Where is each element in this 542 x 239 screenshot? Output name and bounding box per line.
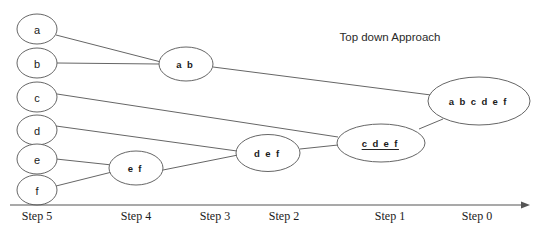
node-cdef[interactable]: c d e f [337, 124, 425, 162]
axis-tick-label-3: Step 2 [269, 209, 299, 223]
edge-def-to-cdef [300, 145, 338, 149]
node-ab-label: a b [176, 59, 194, 70]
node-abcdef-label: a b c d e f [449, 96, 508, 107]
node-d[interactable]: d [17, 115, 57, 145]
axis-tick-label-4: Step 1 [375, 209, 405, 223]
dendrogram-canvas: abcdefe fa bd e fc d e fa b c d e f Step… [0, 0, 542, 239]
node-cdef-label: c d e f [362, 138, 399, 149]
node-e-label: e [34, 154, 40, 166]
edge-ef-to-def [163, 155, 238, 170]
node-d-label: d [34, 125, 40, 137]
edge-d-to-def [56, 126, 237, 151]
edge-b-to-ab [57, 63, 159, 64]
node-c-label: c [34, 92, 40, 104]
edge-e-to-ef [56, 159, 112, 165]
edge-ab-to-abcdef [213, 67, 431, 95]
node-c[interactable]: c [17, 82, 57, 112]
dendrogram-diagram: abcdefe fa bd e fc d e fa b c d e f Step… [0, 0, 542, 239]
node-def[interactable]: d e f [236, 135, 300, 172]
diagram-title: Top down Approach [339, 31, 440, 43]
node-a-label: a [34, 24, 41, 36]
node-ef[interactable]: e f [109, 151, 163, 185]
axis-layer: Step 5Step 4Step 3Step 2Step 1Step 0 [10, 201, 530, 222]
node-b-label: b [34, 58, 40, 70]
axis-tick-label-0: Step 5 [22, 209, 52, 223]
edge-f-to-ef [56, 172, 112, 186]
axis-arrow-icon [521, 201, 530, 208]
node-b[interactable]: b [17, 48, 57, 78]
axis-tick-label-5: Step 0 [462, 209, 492, 223]
node-a[interactable]: a [17, 14, 57, 44]
edge-cdef-to-abcdef [419, 119, 443, 129]
node-f[interactable]: f [17, 175, 57, 205]
axis-tick-label-2: Step 3 [200, 209, 230, 223]
node-def-label: d e f [254, 148, 281, 159]
edge-a-to-ab [56, 35, 161, 62]
node-ab[interactable]: a b [159, 47, 213, 81]
edge-c-to-cdef [57, 94, 338, 137]
axis-tick-label-1: Step 4 [121, 209, 151, 223]
node-abcdef[interactable]: a b c d e f [428, 77, 530, 125]
node-ef-label: e f [128, 163, 143, 174]
node-e[interactable]: e [17, 144, 57, 174]
